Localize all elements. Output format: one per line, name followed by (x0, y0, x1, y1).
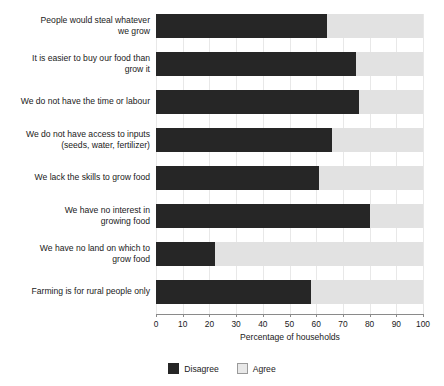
bar-segment-agree (327, 14, 423, 38)
category-label: We do not have access to inputs(seeds, w… (2, 129, 150, 151)
x-tick-label: 90 (381, 319, 411, 329)
category-label-line: grow it (2, 64, 150, 75)
category-label-line: We have no land on which to (2, 243, 150, 254)
legend-label: Agree (253, 364, 276, 374)
x-tick-label: 30 (221, 319, 251, 329)
x-tick-label: 50 (275, 319, 305, 329)
x-tick (343, 314, 344, 317)
bar-row (156, 90, 423, 114)
bar-row (156, 280, 423, 304)
x-tick-label: 70 (328, 319, 358, 329)
x-tick (263, 314, 264, 317)
bar-segment-disagree (156, 204, 370, 228)
category-label-line: (seeds, water, fertilizer) (2, 140, 150, 151)
bar-row (156, 204, 423, 228)
category-label: We lack the skills to grow food (2, 172, 150, 183)
bar-row (156, 52, 423, 76)
x-tick (156, 314, 157, 317)
category-label: We do not have the time or labour (2, 96, 150, 107)
category-label-line: grow food (2, 254, 150, 265)
bar-segment-disagree (156, 242, 215, 266)
category-label: We have no land on which togrow food (2, 243, 150, 265)
x-tick (290, 314, 291, 317)
x-tick-label: 80 (355, 319, 385, 329)
chart-container: People would steal whateverwe growIt is … (0, 0, 444, 386)
category-label-line: we grow (2, 26, 150, 37)
x-tick (236, 314, 237, 317)
bar-segment-agree (319, 166, 423, 190)
bar-segment-disagree (156, 52, 356, 76)
bar-segment-disagree (156, 90, 359, 114)
bar-segment-disagree (156, 128, 332, 152)
legend-swatch-icon (237, 363, 248, 374)
category-label-line: It is easier to buy our food than (2, 53, 150, 64)
category-label: We have no interest ingrowing food (2, 205, 150, 227)
category-label: It is easier to buy our food thangrow it (2, 53, 150, 75)
x-tick (370, 314, 371, 317)
x-tick (423, 314, 424, 317)
category-label-line: We do not have access to inputs (2, 129, 150, 140)
bar-row (156, 166, 423, 190)
x-tick-label: 60 (301, 319, 331, 329)
x-tick (396, 314, 397, 317)
bar-segment-agree (215, 242, 423, 266)
bar-segment-agree (356, 52, 423, 76)
category-label-line: People would steal whatever (2, 15, 150, 26)
bar-segment-agree (332, 128, 423, 152)
bar-row (156, 128, 423, 152)
x-axis-title: Percentage of households (156, 332, 424, 342)
bar-row (156, 242, 423, 266)
x-tick-label: 100 (408, 319, 438, 329)
bar-segment-agree (311, 280, 423, 304)
x-tick (183, 314, 184, 317)
x-tick (316, 314, 317, 317)
plot-area (156, 14, 423, 314)
legend-item[interactable]: Agree (237, 363, 276, 374)
gridline (423, 14, 424, 314)
x-tick-label: 20 (194, 319, 224, 329)
legend-swatch-icon (168, 363, 179, 374)
category-label-line: growing food (2, 216, 150, 227)
category-label: People would steal whateverwe grow (2, 15, 150, 37)
category-label-line: Farming is for rural people only (2, 286, 150, 297)
chart-title-clipped (0, 0, 444, 5)
category-label-line: We lack the skills to grow food (2, 172, 150, 183)
x-tick (209, 314, 210, 317)
x-tick-label: 40 (248, 319, 278, 329)
bar-segment-disagree (156, 280, 311, 304)
x-tick-label: 0 (141, 319, 171, 329)
bar-segment-agree (370, 204, 423, 228)
bar-segment-agree (359, 90, 423, 114)
category-label: Farming is for rural people only (2, 286, 150, 297)
legend-item[interactable]: Disagree (168, 363, 218, 374)
legend: DisagreeAgree (0, 363, 444, 374)
bar-segment-disagree (156, 166, 319, 190)
legend-label: Disagree (184, 364, 218, 374)
bar-segment-disagree (156, 14, 327, 38)
category-label-line: We have no interest in (2, 205, 150, 216)
bar-row (156, 14, 423, 38)
x-tick-label: 10 (168, 319, 198, 329)
category-label-line: We do not have the time or labour (2, 96, 150, 107)
